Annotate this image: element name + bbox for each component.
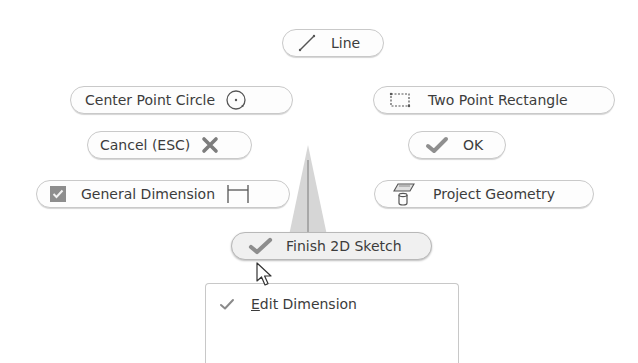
checkmark-icon bbox=[219, 296, 235, 312]
rectangle-icon bbox=[388, 90, 412, 110]
circle-icon bbox=[225, 89, 247, 111]
checkmark-icon bbox=[248, 236, 274, 256]
line-label: Line bbox=[331, 35, 360, 51]
two-point-rectangle-label: Two Point Rectangle bbox=[428, 92, 568, 108]
mouse-cursor-icon bbox=[256, 262, 274, 292]
two-point-rectangle-button[interactable]: Two Point Rectangle bbox=[373, 86, 615, 114]
project-geometry-button[interactable]: Project Geometry bbox=[374, 180, 594, 208]
finish-2d-sketch-button[interactable]: Finish 2D Sketch bbox=[231, 232, 432, 260]
general-dimension-button[interactable]: General Dimension bbox=[36, 180, 290, 208]
center-point-circle-label: Center Point Circle bbox=[85, 92, 215, 108]
general-dimension-label: General Dimension bbox=[81, 186, 215, 202]
ok-button[interactable]: OK bbox=[408, 131, 506, 159]
edit-dimension-mnemonic: E bbox=[251, 296, 260, 312]
line-icon bbox=[297, 33, 317, 53]
menu-item-edit-dimension[interactable]: Edit Dimension bbox=[206, 292, 458, 316]
close-icon bbox=[200, 135, 220, 155]
edit-dimension-label-rest: dit Dimension bbox=[260, 296, 357, 312]
edit-dimension-label: Edit Dimension bbox=[251, 296, 357, 312]
cancel-button[interactable]: Cancel (ESC) bbox=[87, 131, 252, 159]
checked-box-icon bbox=[49, 185, 67, 203]
project-geometry-icon bbox=[391, 181, 417, 207]
checkmark-icon bbox=[425, 135, 449, 155]
dimension-icon bbox=[225, 183, 251, 205]
center-point-circle-button[interactable]: Center Point Circle bbox=[70, 86, 293, 114]
overflow-menu: Edit Dimension bbox=[205, 283, 459, 363]
finish-2d-sketch-label: Finish 2D Sketch bbox=[286, 238, 402, 254]
ok-label: OK bbox=[463, 137, 483, 153]
cancel-label: Cancel (ESC) bbox=[100, 137, 190, 153]
project-geometry-label: Project Geometry bbox=[433, 186, 555, 202]
line-button[interactable]: Line bbox=[282, 29, 384, 57]
